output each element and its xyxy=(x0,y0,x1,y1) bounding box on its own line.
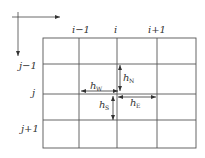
grid-diagram: i−1 i i+1 j−1 j j+1 h W h N h E h S xyxy=(0,0,205,158)
col-label-i-minus-1: i−1 xyxy=(72,24,90,35)
h-north-label: h N xyxy=(123,72,134,84)
col-label-i-plus-1: i+1 xyxy=(148,24,166,35)
grid xyxy=(43,38,196,148)
h-west-label: h W xyxy=(90,80,103,92)
svg-text:W: W xyxy=(96,85,103,92)
row-label-j-minus-1: j−1 xyxy=(17,60,37,71)
row-label-j-plus-1: j+1 xyxy=(19,123,39,134)
h-south-label: h S xyxy=(99,99,109,111)
row-label-j: j xyxy=(30,87,35,98)
h-east-label: h E xyxy=(130,97,140,109)
col-label-i: i xyxy=(114,24,117,35)
svg-text:N: N xyxy=(129,77,134,84)
svg-text:E: E xyxy=(136,102,140,109)
svg-text:S: S xyxy=(105,104,109,111)
grid-border xyxy=(43,38,196,148)
